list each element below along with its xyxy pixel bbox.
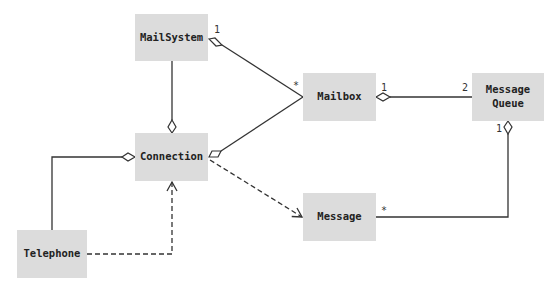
connection-mailbox-aggregation — [209, 97, 303, 157]
class-message-queue: Message Queue — [472, 73, 544, 121]
aggregation-diamond-icon — [504, 121, 512, 134]
queue-message-aggregation — [376, 121, 512, 217]
mailsystem-mailbox-aggregation — [209, 38, 303, 97]
uml-diagram: MailSystem Connection Mailbox Message Qu… — [0, 0, 551, 292]
aggregation-diamond-icon — [168, 120, 176, 133]
multiplicity-mailbox-queue-src: 1 — [381, 82, 387, 93]
connection-telephone-aggregation — [52, 153, 135, 230]
class-telephone: Telephone — [17, 230, 87, 278]
aggregation-diamond-icon — [122, 153, 135, 161]
mailbox-queue-aggregation — [376, 93, 472, 101]
class-mailbox: Mailbox — [303, 73, 376, 121]
multiplicity-queue-message-src: 1 — [496, 123, 502, 134]
multiplicity-queue-message-dst: * — [381, 205, 387, 216]
multiplicity-mailsystem-mailbox-src: 1 — [214, 24, 220, 35]
connection-mailsystem-aggregation — [168, 61, 176, 133]
aggregation-diamond-icon — [376, 93, 390, 101]
aggregation-diamond-icon — [209, 151, 221, 157]
aggregation-diamond-icon — [209, 38, 222, 46]
multiplicity-mailbox-queue-dst: 2 — [462, 82, 468, 93]
connection-message-dependency — [210, 160, 302, 217]
class-mailsystem: MailSystem — [135, 14, 208, 61]
telephone-connection-dependency — [87, 182, 172, 254]
class-message: Message — [303, 193, 376, 241]
multiplicity-mailsystem-mailbox-dst: * — [293, 80, 299, 91]
class-connection: Connection — [135, 133, 208, 181]
